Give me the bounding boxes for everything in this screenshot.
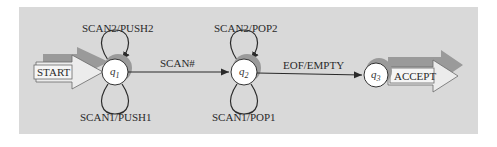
q1-top-loop-label: SCAN2/PUSH2: [82, 22, 154, 34]
start-arrow: START: [34, 47, 109, 89]
q2-top-loop-label: SCAN2/POP2: [214, 22, 278, 34]
edge-q1-q2-label: SCAN#: [160, 57, 195, 69]
q2-bottom-loop-label: SCAN1/POP1: [212, 111, 276, 123]
q1-bottom-loop-label: SCAN1/PUSH1: [80, 111, 152, 123]
accept-label: ACCEPT: [394, 70, 436, 82]
state-diagram: START SCAN2/PUSH2 SCAN1/PUSH1 q1 SCAN# S…: [0, 0, 497, 147]
accept-arrow: ACCEPT: [388, 50, 463, 92]
edge-q2-q3-label: EOF/EMPTY: [283, 59, 344, 71]
start-label: START: [37, 66, 71, 78]
edge-q2-q3: [257, 73, 362, 75]
